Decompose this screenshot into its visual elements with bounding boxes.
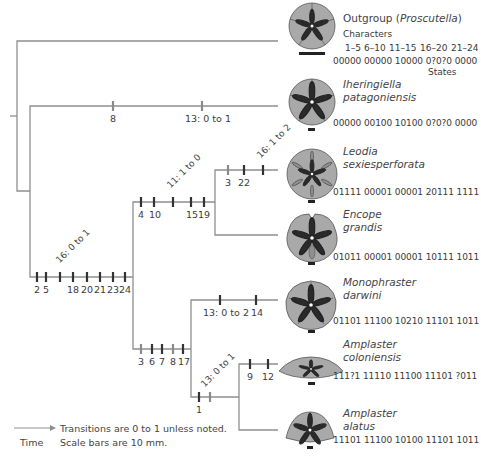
tick-label: 22	[238, 178, 250, 188]
tick-label: 14	[251, 308, 263, 318]
tick-label: 15	[186, 210, 198, 220]
legend-transitions: Transitions are 0 to 1 unless noted.	[60, 423, 227, 434]
tick-label: 18	[67, 285, 79, 295]
outgroup-title: Outgroup (Proscutella)	[343, 12, 462, 25]
scale-bar	[308, 330, 315, 333]
fossil-leodia	[287, 149, 337, 199]
range-11-15: 11–15	[389, 43, 416, 53]
legend-time-label: Time	[20, 437, 43, 448]
states-amplaster-coloniensis: 111?1 11110 11100 11101 ?011	[333, 371, 477, 381]
tick-label: 8	[170, 357, 176, 367]
taxon-iheringiella: Iheringiellapatagoniensis	[343, 78, 416, 104]
scale-bar	[308, 382, 315, 385]
range-6-10: 6–10	[364, 43, 386, 53]
scale-bar	[308, 200, 315, 203]
scale-bar	[307, 446, 313, 449]
taxon-amplaster-alatus: Amplasteralatus	[343, 407, 397, 433]
taxon-leodia: Leodiasexiesperforata	[343, 145, 425, 171]
tick-label: 21	[94, 285, 106, 295]
tick-label: 12	[262, 372, 274, 382]
scale-bar	[308, 262, 315, 265]
tick-label: 17	[178, 357, 190, 367]
states-iheringiella: 00000 00100 10100 0?0?0 0000	[333, 118, 477, 128]
tick-label: 13: 0 to 1	[185, 114, 231, 124]
tick-label: 8	[110, 114, 116, 124]
tick-label: 24	[119, 285, 131, 295]
range-1-5: 1–5	[345, 43, 361, 53]
tick-label: 3	[138, 357, 144, 367]
tick-label: 6	[149, 357, 155, 367]
time-arrow-icon	[14, 425, 56, 431]
characters-label: Characters	[343, 29, 392, 39]
scale-bar	[308, 128, 315, 131]
legend-scale-bars: Scale bars are 10 mm.	[60, 437, 167, 448]
tick-label: 19	[198, 210, 210, 220]
states-leodia: 01111 00001 00001 20111 1111	[333, 187, 479, 197]
states-label: States	[428, 67, 457, 77]
states-amplaster-alatus: 11101 11100 10100 11101 1011	[333, 435, 479, 445]
fossil-iheringiella	[289, 79, 335, 125]
tick-label: 23	[107, 285, 119, 295]
range-16-20: 16–20	[420, 43, 447, 53]
taxon-amplaster-coloniensis: Amplastercoloniensis	[343, 338, 401, 364]
scale-bar	[299, 52, 325, 55]
fossil-amplaster-alatus	[286, 412, 334, 445]
tick-label: 2	[34, 285, 40, 295]
tick-label: 9	[247, 372, 253, 382]
tick-label: 20	[81, 285, 93, 295]
states-outgroup: 00000 00000 10000 0?0?0 0000	[333, 56, 477, 66]
fossil-monophraster	[286, 281, 336, 330]
tick-label: 5	[43, 285, 49, 295]
fossil-proscutella	[289, 3, 335, 49]
branch-outgroup	[17, 41, 278, 191]
tick-label: 3	[225, 178, 231, 188]
states-monophraster: 01101 11100 10210 11101 1011	[333, 316, 479, 326]
tree-branches	[10, 41, 278, 430]
tick-label: 13: 0 to 2	[203, 308, 249, 318]
tick-label: 1	[196, 405, 202, 415]
range-21-24: 21–24	[451, 43, 478, 53]
taxon-encope: Encopegrandis	[343, 208, 382, 234]
taxon-monophraster: Monophrasterdarwini	[343, 276, 416, 302]
fossil-encope	[287, 214, 337, 262]
phylogenetic-tree	[0, 0, 481, 457]
tick-label: 4	[138, 210, 144, 220]
tick-label: 10	[149, 210, 161, 220]
states-encope: 01011 00001 00001 10111 1011	[333, 252, 479, 262]
tick-label: 7	[159, 357, 165, 367]
branch-main-ingroup	[133, 202, 215, 349]
